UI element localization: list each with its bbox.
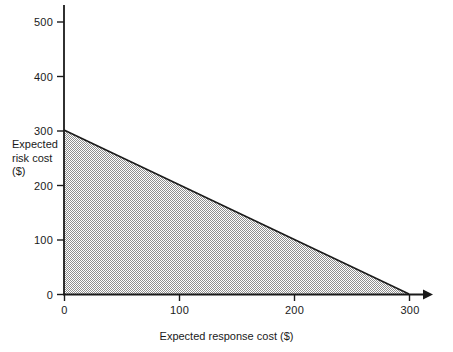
y-tick-label-100: 100 (20, 235, 53, 246)
y-axis-title: Expected risk cost ($) (12, 138, 64, 179)
x-tick-label-200: 200 (285, 305, 304, 316)
x-tick-label-0: 0 (61, 305, 67, 316)
y-axis-title-line-2: risk cost (12, 152, 64, 166)
y-axis-title-line-1: Expected (12, 138, 64, 152)
x-axis-title: Expected response cost ($) (0, 330, 453, 343)
y-tick-label-200: 200 (20, 180, 53, 191)
x-axis-arrow-icon (423, 290, 433, 300)
y-tick-label-500: 500 (20, 17, 53, 28)
chart-container: 0 100 200 300 400 500 0 100 200 300 Expe… (0, 0, 453, 352)
y-tick-label-400: 400 (20, 71, 53, 82)
y-axis-title-line-3: ($) (12, 165, 64, 179)
x-tick-label-100: 100 (170, 305, 189, 316)
y-tick-label-0: 0 (20, 289, 53, 300)
chart-plot-area (0, 0, 453, 352)
x-tick-label-300: 300 (401, 305, 420, 316)
y-tick-label-300: 300 (20, 126, 53, 137)
